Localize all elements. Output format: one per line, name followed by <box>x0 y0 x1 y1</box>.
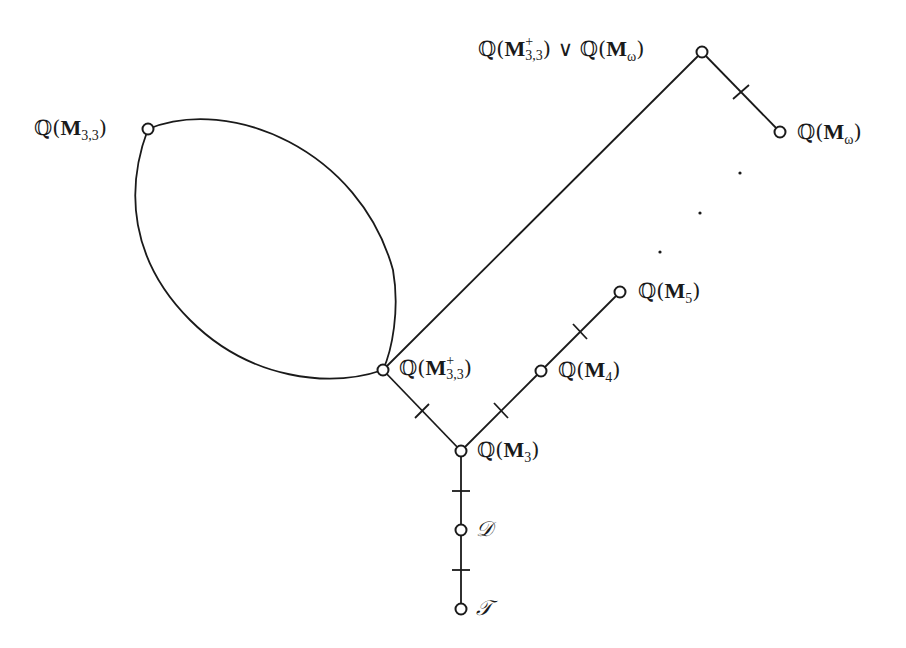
bold-m: M <box>61 115 82 140</box>
label-q-m5: ℚ(M5) <box>638 280 700 306</box>
label-q-m4: ℚ(M4) <box>558 359 620 385</box>
ellipsis-dot <box>698 211 701 214</box>
ellipsis-dot <box>658 250 661 253</box>
blackboard-q: ℚ <box>638 279 656 303</box>
blackboard-q: ℚ <box>478 37 496 61</box>
sup-sub-stack: +3,3 <box>446 354 464 382</box>
label-q-m3: ℚ(M3) <box>477 439 539 465</box>
bold-m: M <box>606 36 627 61</box>
blackboard-q: ℚ <box>399 356 417 380</box>
label-t: 𝒯 <box>476 598 492 619</box>
node-q-m33 <box>143 124 154 135</box>
paren: ) <box>853 120 861 144</box>
bold-m: M <box>426 355 447 380</box>
paren: ( <box>496 37 504 61</box>
lattice-diagram <box>0 0 906 648</box>
paren: ) <box>692 279 700 303</box>
node-q-m5 <box>615 287 626 298</box>
node-t <box>456 604 467 615</box>
paren: ( <box>417 356 425 380</box>
paren: ( <box>576 358 584 382</box>
bold-m: M <box>665 278 686 303</box>
superscript: + <box>446 354 464 368</box>
paren: ( <box>52 116 60 140</box>
paren: ( <box>656 279 664 303</box>
paren: ) <box>543 37 551 61</box>
paren: ) <box>99 116 107 140</box>
node-d <box>456 525 467 536</box>
paren: ) <box>464 356 472 380</box>
node-q-m3 <box>456 446 467 457</box>
join-symbol: ∨ <box>558 37 573 61</box>
ellipsis-dot <box>738 171 741 174</box>
label-d: 𝒟 <box>476 519 493 540</box>
paren: ) <box>531 438 539 462</box>
paren: ) <box>636 37 644 61</box>
label-join: ℚ(M+3,3) ∨ ℚ(Mω) <box>478 36 644 64</box>
label-q-m33: ℚ(M3,3) <box>34 117 107 143</box>
paren: ( <box>495 438 503 462</box>
bold-m: M <box>585 357 606 382</box>
label-q-m33plus: ℚ(M+3,3) <box>399 355 472 383</box>
subscript: 3,3 <box>525 49 543 63</box>
edge-m33plus-to-join <box>383 52 702 370</box>
node-q-m4 <box>536 366 547 377</box>
subscript: 3,3 <box>81 128 99 143</box>
paren: ( <box>598 37 606 61</box>
blackboard-q: ℚ <box>580 37 598 61</box>
superscript: + <box>525 35 543 49</box>
blackboard-q: ℚ <box>558 358 576 382</box>
blackboard-q: ℚ <box>797 120 815 144</box>
node-q-momega <box>775 127 786 138</box>
paren: ( <box>815 120 823 144</box>
subscript: ω <box>627 49 636 64</box>
bold-m: M <box>824 119 845 144</box>
subscript: 3,3 <box>446 368 464 382</box>
blackboard-q: ℚ <box>34 116 52 140</box>
bold-m: M <box>504 437 525 462</box>
sup-sub-stack: +3,3 <box>525 35 543 63</box>
paren: ) <box>612 358 620 382</box>
edge-m33-upper-curve <box>148 119 396 370</box>
label-q-momega: ℚ(Mω) <box>797 121 862 147</box>
edge-m33-lower-curve <box>135 129 383 378</box>
blackboard-q: ℚ <box>477 438 495 462</box>
bold-m: M <box>505 36 526 61</box>
node-q-m33plus <box>378 365 389 376</box>
node-join <box>697 47 708 58</box>
